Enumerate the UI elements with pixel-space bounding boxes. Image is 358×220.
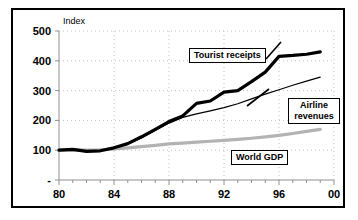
callout-gdp-label: World GDP xyxy=(236,152,283,162)
callout-airline-label-line1: Airline xyxy=(300,100,328,110)
callout-airline-label-line2: revenues xyxy=(294,111,334,121)
series-line-airline-revenues xyxy=(59,77,320,151)
y-tick-label-300: 300 xyxy=(33,85,51,97)
series-line-world-gdp xyxy=(59,129,320,150)
y-axis-title: Index xyxy=(63,16,86,26)
y-tick-label-200: 200 xyxy=(33,114,51,126)
callout-tourist-receipts: Tourist receipts xyxy=(189,48,266,63)
x-tick-label-1984: 84 xyxy=(108,188,121,200)
data-series-group xyxy=(59,52,320,152)
x-tick-label-1980: 80 xyxy=(53,188,65,200)
y-axis-tick-labels: -100200300400500 xyxy=(33,25,52,186)
callout-tourist-label: Tourist receipts xyxy=(194,50,261,60)
callout-airline-revenues: Airline revenues xyxy=(288,98,340,124)
x-tick-label-2000: 00 xyxy=(328,188,340,200)
x-tick-label-1996: 96 xyxy=(273,188,285,200)
callout-world-gdp: World GDP xyxy=(231,150,288,165)
y-axis-tick-marks xyxy=(55,31,59,180)
chart-outer-frame: -100200300400500 808488929600 Index Tour… xyxy=(11,8,345,208)
chart-figure: -100200300400500 808488929600 Index Tour… xyxy=(0,0,358,220)
leader-line-airline xyxy=(247,89,269,106)
y-tick-label-100: 100 xyxy=(33,144,51,156)
y-tick-label-0: - xyxy=(47,174,51,186)
x-axis-tick-marks xyxy=(59,180,334,185)
x-tick-label-1988: 88 xyxy=(163,188,175,200)
y-tick-label-500: 500 xyxy=(33,25,51,37)
x-tick-label-1992: 92 xyxy=(218,188,230,200)
x-axis-tick-labels: 808488929600 xyxy=(53,188,340,200)
y-tick-label-400: 400 xyxy=(33,55,51,67)
